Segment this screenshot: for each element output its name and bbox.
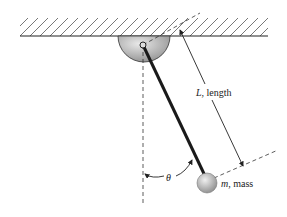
length-arrow-lower	[212, 100, 243, 166]
pivot-extension-line	[143, 13, 200, 45]
pivot-point	[140, 42, 146, 48]
length-arrow-upper	[180, 30, 205, 84]
angle-label: θ	[166, 172, 171, 183]
bob-extension-line	[214, 150, 278, 178]
mass-label: m, mass	[221, 178, 253, 189]
angle-arc-left	[145, 174, 164, 177]
angle-arc-right	[176, 160, 192, 176]
pendulum-bob	[197, 173, 217, 193]
pendulum-diagram: L, length θ m, mass	[0, 0, 287, 217]
ceiling-hatching	[0, 18, 278, 36]
length-label: L, length	[195, 87, 232, 98]
